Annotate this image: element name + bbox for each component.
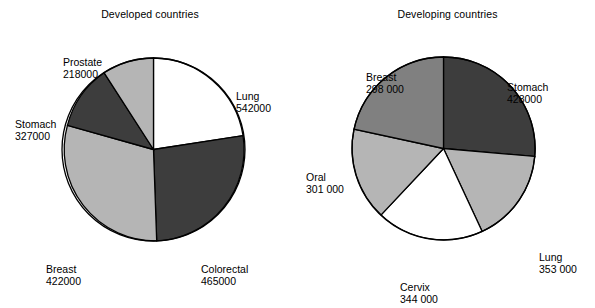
label-stomach-name: Stomach <box>507 81 548 93</box>
label-breast-developing: Breast 298 000 <box>366 58 404 108</box>
label-colorectal-name: Colorectal <box>201 263 248 275</box>
label-breast-value: 422000 <box>46 275 81 288</box>
chart-developing-countries: Developing countries Breast 298 000 Stom… <box>300 0 595 308</box>
label-lung-value: 542000 <box>236 102 271 115</box>
label-cervix-developing: Cervix 344 000 <box>400 268 438 308</box>
label-stomach-name: Stomach <box>15 118 56 130</box>
pie-slice-lung-developed <box>154 58 244 150</box>
chart-title-developing: Developing countries <box>300 8 595 20</box>
label-stomach-developing: Stomach 428000 <box>507 68 548 118</box>
label-prostate-developed: Prostate 218000 <box>63 43 102 93</box>
label-prostate-name: Prostate <box>63 56 102 68</box>
label-lung-developed: Lung 542000 <box>236 77 271 127</box>
label-lung-value: 353 000 <box>539 263 577 276</box>
label-breast-value: 298 000 <box>366 83 404 96</box>
label-breast-name: Breast <box>46 263 76 275</box>
label-oral-value: 301 000 <box>306 183 344 196</box>
label-cervix-name: Cervix <box>400 281 430 293</box>
chart-title-developed: Developed countries <box>0 8 300 20</box>
label-stomach-developed: Stomach 327000 <box>15 105 56 155</box>
label-breast-developed: Breast 422000 <box>46 250 81 300</box>
label-oral-name: Oral <box>306 171 326 183</box>
pie-slice-colorectal-developed <box>154 136 245 241</box>
chart-developed-countries: Developed countries Prostate 218000 Lung… <box>0 0 300 308</box>
label-oral-developing: Oral 301 000 <box>306 158 344 208</box>
label-cervix-value: 344 000 <box>400 293 438 306</box>
label-colorectal-value: 465000 <box>201 275 248 288</box>
label-stomach-value: 327000 <box>15 130 56 143</box>
label-lung-developing: Lung 353 000 <box>539 238 577 288</box>
label-lung-name: Lung <box>236 90 259 102</box>
label-stomach-value: 428000 <box>507 93 548 106</box>
label-breast-name: Breast <box>366 71 396 83</box>
label-prostate-value: 218000 <box>63 68 102 81</box>
label-colorectal-developed: Colorectal 465000 <box>201 250 248 300</box>
label-lung-name: Lung <box>539 251 562 263</box>
